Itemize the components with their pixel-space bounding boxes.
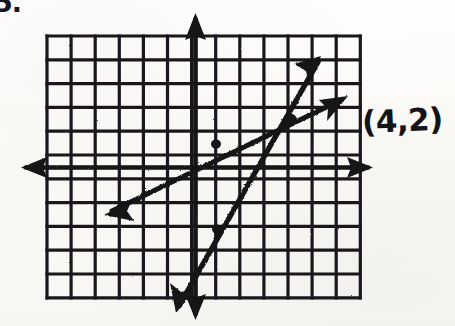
scanned-page: 5.	[0, 0, 455, 326]
steep-line-stroke	[179, 62, 318, 306]
intersection-coordinate-label: (4,2)	[361, 100, 443, 139]
line-node-marker	[212, 225, 222, 234]
graph-figure	[0, 0, 455, 326]
y-axis-arrow-up-icon	[185, 13, 206, 40]
line-node-marker	[211, 140, 221, 149]
intersection-point-marker	[283, 114, 297, 127]
